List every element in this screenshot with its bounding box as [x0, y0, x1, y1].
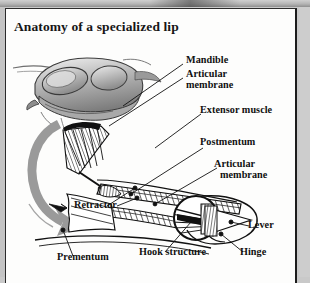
page-top-edge: [0, 0, 310, 7]
page-left-margin: [0, 7, 5, 277]
label-postmentum: Postmentum: [200, 136, 255, 148]
label-extensor-muscle: Extensor muscle: [200, 104, 272, 116]
label-articular-membrane-2-line2: membrane: [220, 169, 267, 181]
label-articular-membrane-1-line2: membrane: [186, 79, 233, 91]
label-hook-structure: Hook structure: [139, 246, 206, 258]
label-mandible: Mandible: [186, 54, 228, 66]
label-prementum: Prementum: [57, 251, 109, 263]
page-right-margin: [299, 7, 310, 277]
label-hinge: Hinge: [240, 246, 266, 258]
label-articular-membrane-1: Articular: [186, 68, 227, 80]
label-lever: Lever: [248, 219, 274, 231]
label-articular-membrane-2: Articular: [214, 158, 255, 170]
label-retractor: Retractor: [74, 199, 117, 211]
